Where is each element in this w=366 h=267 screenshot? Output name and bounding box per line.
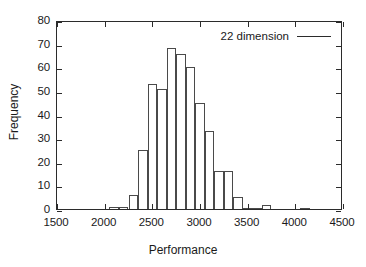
y-axis-tick-label: 70 (10, 39, 50, 51)
histogram-bar (252, 208, 262, 209)
histogram-bar (224, 171, 234, 209)
histogram-bar (129, 195, 139, 209)
y-axis-tick (336, 46, 341, 47)
x-axis-tick (152, 204, 153, 209)
y-axis-tick (336, 164, 341, 165)
x-axis-tick (200, 22, 201, 27)
x-axis-tick (105, 22, 106, 27)
y-axis-tick-label: 0 (10, 204, 50, 216)
x-axis-tick (152, 22, 153, 27)
x-axis-tick-label: 2500 (126, 217, 176, 229)
x-axis-tick (248, 22, 249, 27)
histogram-bar (167, 48, 177, 209)
y-axis-tick (57, 164, 62, 165)
y-axis-tick (336, 69, 341, 70)
y-axis-tick (57, 93, 62, 94)
histogram-bar (109, 207, 119, 209)
histogram-bar (214, 171, 224, 209)
plot-area: 22 dimension (56, 21, 342, 210)
y-axis-tick (57, 140, 62, 141)
histogram-bar (186, 67, 196, 209)
x-axis-tick-label: 4500 (317, 217, 366, 229)
x-axis-tick (105, 204, 106, 209)
histogram-bar (195, 103, 205, 209)
legend-entry-label: 22 dimension (221, 30, 289, 42)
y-axis-tick-label: 10 (10, 180, 50, 192)
histogram-bar (176, 54, 186, 209)
y-axis-tick (57, 211, 62, 212)
y-axis-title: Frequency (7, 62, 21, 162)
x-axis-tick-label: 2000 (79, 217, 129, 229)
y-axis-tick (336, 187, 341, 188)
histogram-bar (157, 89, 167, 209)
y-axis-tick (57, 187, 62, 188)
histogram-bar (148, 84, 158, 209)
histogram-bar (300, 208, 310, 209)
x-axis-tick-label: 1500 (31, 217, 81, 229)
histogram-bar (138, 150, 148, 209)
y-axis-tick (336, 140, 341, 141)
y-axis-tick (336, 211, 341, 212)
y-axis-tick (336, 93, 341, 94)
x-axis-title: Performance (0, 243, 366, 257)
x-axis-tick (343, 22, 344, 27)
histogram-bar (262, 205, 272, 209)
x-axis-tick-label: 3500 (222, 217, 272, 229)
x-axis-tick (200, 204, 201, 209)
y-axis-tick (336, 117, 341, 118)
x-axis-tick (57, 204, 58, 209)
x-axis-tick-label: 4000 (269, 217, 319, 229)
x-axis-tick (295, 22, 296, 27)
x-axis-tick (343, 204, 344, 209)
histogram-bar (205, 131, 215, 209)
x-axis-tick (295, 204, 296, 209)
histogram-figure: 22 dimension 01020304050607080 150020002… (0, 0, 366, 267)
histogram-bar (233, 197, 243, 209)
y-axis-tick (336, 22, 341, 23)
histogram-bars (57, 22, 341, 209)
y-axis-tick (57, 46, 62, 47)
x-axis-tick (57, 22, 58, 27)
y-axis-tick-label: 80 (10, 15, 50, 27)
y-axis-tick (57, 69, 62, 70)
x-axis-tick (248, 204, 249, 209)
x-axis-tick-label: 3000 (174, 217, 224, 229)
legend-line-swatch (297, 36, 331, 37)
histogram-bar (119, 207, 129, 209)
chart-legend: 22 dimension (215, 28, 335, 44)
y-axis-tick (57, 117, 62, 118)
